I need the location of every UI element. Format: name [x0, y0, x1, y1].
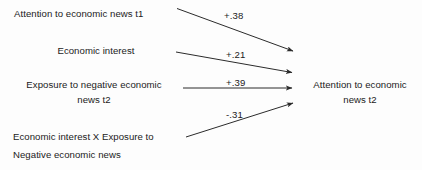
- path-diagram: Attention to economic news t1 Economic i…: [0, 0, 422, 170]
- edge-label-attention-t1: +.38: [224, 10, 243, 21]
- node-exposure-negative-t2: Exposure to negative economic news t2: [8, 78, 180, 107]
- edge-label-economic-interest: +.21: [226, 49, 245, 60]
- node-interaction-term: Economic interest X Exposure to Negative…: [13, 128, 191, 164]
- node-attention-t2: Attention to economic news t2: [300, 78, 420, 107]
- edge-label-exposure-negative-t2: +.39: [226, 77, 245, 88]
- node-economic-interest: Economic interest: [14, 44, 178, 59]
- edge-label-interaction-term: -.31: [226, 109, 243, 120]
- node-attention-t1: Attention to economic news t1: [14, 7, 178, 22]
